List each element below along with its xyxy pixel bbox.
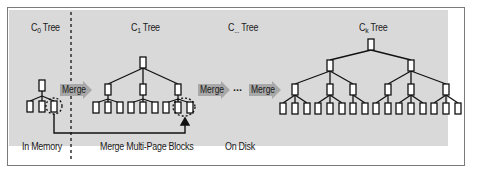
ck-tree-title: Ck Tree xyxy=(359,21,387,35)
in-memory-label: In Memory xyxy=(22,140,62,152)
merge-multi-page-blocks-label: Merge Multi-Page Blocks xyxy=(100,140,193,152)
cmid-tree-title: C... Tree xyxy=(228,21,258,35)
on-disk-label: On Disk xyxy=(225,140,255,152)
ellipsis: ... xyxy=(233,81,242,93)
merge-arrow-c1-cmid: Merge xyxy=(198,81,230,99)
merge-connector-arrow xyxy=(54,114,189,133)
merge-arrow-cmid-ck: Merge xyxy=(249,81,281,99)
ck-tree xyxy=(280,39,461,114)
c0-tree-title: C0 Tree xyxy=(31,21,60,35)
c1-tree-title: C1 Tree xyxy=(131,21,160,35)
c0-tree xyxy=(27,80,62,114)
c1-tree xyxy=(93,57,195,116)
merge-arrow-c0-c1: Merge xyxy=(60,81,92,99)
